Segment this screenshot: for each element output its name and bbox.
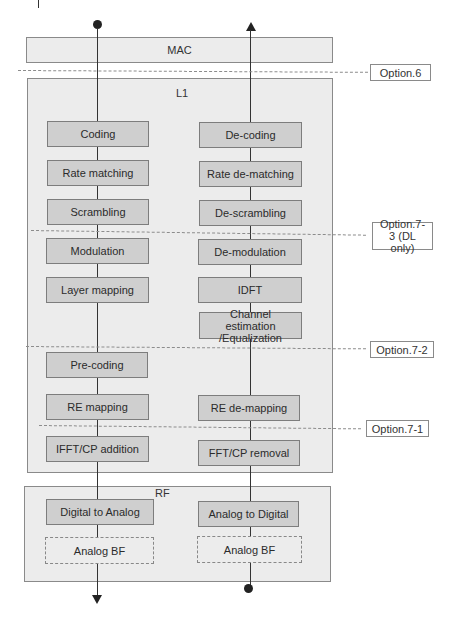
tx-block-modulation: Modulation	[46, 238, 149, 264]
rx-block-analog-bf: Analog BF	[197, 536, 302, 563]
tx-block-ifft-cp-addition: IFFT/CP addition	[46, 436, 149, 462]
option-7-3-label: Option.7-3 (DL only)	[372, 222, 433, 250]
tx-block-pre-coding: Pre-coding	[46, 352, 148, 378]
rx-output-arrow-icon	[246, 22, 256, 31]
tx-block-digital-to-analog: Digital to Analog	[46, 499, 154, 525]
tx-block-coding: Coding	[47, 121, 149, 147]
tx-block-analog-bf: Analog BF	[45, 537, 154, 564]
page-edge-mark	[38, 0, 39, 8]
mac-layer: MAC	[26, 37, 333, 63]
option-6-label: Option.6	[370, 64, 431, 81]
split-line-option-6	[18, 70, 368, 73]
rx-block-re-de-mapping: RE de-mapping	[198, 395, 300, 421]
option-7-2-label: Option.7-2	[370, 341, 434, 358]
tx-block-rate-matching: Rate matching	[47, 160, 149, 186]
l1-label: L1	[176, 87, 188, 99]
rx-block-idft: IDFT	[198, 277, 302, 303]
option-7-1-label: Option.7-1	[366, 420, 429, 437]
tx-block-re-mapping: RE mapping	[46, 394, 149, 420]
tx-output-arrow-icon	[92, 595, 102, 604]
rx-block-channel-estimation-equalization: Channel estimation /Equalization	[199, 312, 302, 339]
tx-block-layer-mapping: Layer mapping	[46, 277, 149, 303]
rx-input-dot-icon	[244, 584, 253, 593]
rx-block-de-coding: De-coding	[199, 122, 302, 148]
rx-block-de-modulation: De-modulation	[198, 239, 302, 265]
rx-block-de-scrambling: De-scrambling	[199, 200, 302, 226]
rx-block-fft-cp-removal: FFT/CP removal	[198, 440, 300, 466]
rf-label: RF	[155, 487, 170, 499]
tx-block-scrambling: Scrambling	[47, 199, 149, 225]
mac-label: MAC	[27, 44, 332, 56]
rx-block-rate-de-matching: Rate de-matching	[199, 161, 302, 187]
rx-block-analog-to-digital: Analog to Digital	[198, 501, 299, 527]
